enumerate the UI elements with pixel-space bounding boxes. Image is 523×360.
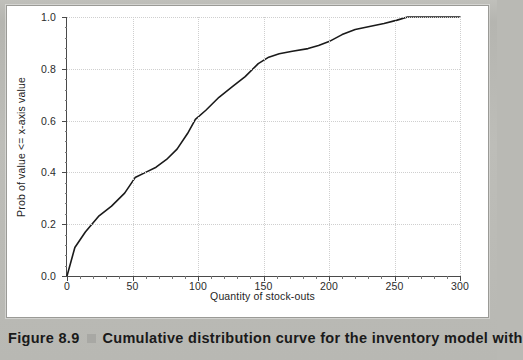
x-axis-minor-tick <box>224 276 225 279</box>
y-axis-minor-tick <box>65 235 68 236</box>
x-axis-minor-tick <box>106 276 107 279</box>
y-axis-tick <box>62 17 67 18</box>
y-axis-minor-tick <box>65 110 68 111</box>
x-axis-minor-tick <box>277 276 278 279</box>
gridline-vertical <box>329 17 330 276</box>
x-axis-minor-tick <box>303 276 304 279</box>
x-axis-minor-tick <box>342 276 343 279</box>
x-axis-minor-tick <box>119 276 120 279</box>
gridline-horizontal <box>67 224 460 225</box>
y-axis-minor-tick <box>65 38 68 39</box>
y-axis-minor-tick <box>65 58 68 59</box>
x-axis-minor-tick <box>172 276 173 279</box>
gridline-vertical <box>460 17 461 276</box>
x-axis-minor-tick <box>211 276 212 279</box>
y-axis-minor-tick <box>65 162 68 163</box>
y-axis-tick-label: 0.4 <box>41 166 56 178</box>
y-axis-tick-label: 0.6 <box>41 115 56 127</box>
y-axis-tick <box>62 276 67 277</box>
caption-text: Cumulative distribution curve for the in… <box>103 330 523 346</box>
gridline-horizontal <box>67 69 460 70</box>
gridline-vertical <box>264 17 265 276</box>
x-axis-minor-tick <box>185 276 186 279</box>
y-axis-minor-tick <box>65 90 68 91</box>
gray-square-marker-icon <box>87 334 96 343</box>
y-axis-tick-label: 1.0 <box>41 11 56 23</box>
y-axis-tick <box>62 172 67 173</box>
y-axis-tick <box>62 121 67 122</box>
y-axis-tick-label: 0.0 <box>41 270 56 282</box>
x-axis-minor-tick <box>434 276 435 279</box>
gridline-vertical <box>133 17 134 276</box>
y-axis-tick <box>62 224 67 225</box>
y-axis-title-text: Prob of value <= x-axis value <box>15 77 27 217</box>
gridline-vertical <box>198 17 199 276</box>
x-axis-minor-tick <box>408 276 409 279</box>
gridline-vertical <box>395 17 396 276</box>
x-axis-minor-tick <box>447 276 448 279</box>
y-axis-tick <box>62 69 67 70</box>
y-axis-title: Prob of value <= x-axis value <box>14 17 28 276</box>
caption-figure-number: Figure 8.9 <box>8 330 80 346</box>
y-axis-minor-tick <box>65 193 68 194</box>
y-axis-minor-tick <box>65 255 68 256</box>
gridline-horizontal <box>67 172 460 173</box>
x-axis-minor-tick <box>421 276 422 279</box>
y-axis-tick-label: 0.8 <box>41 63 56 75</box>
y-axis-minor-tick <box>65 79 68 80</box>
x-axis-minor-tick <box>250 276 251 279</box>
x-axis-minor-tick <box>159 276 160 279</box>
y-axis-minor-tick <box>65 245 68 246</box>
x-axis-title: Quantity of stock-outs <box>66 290 459 302</box>
x-axis-minor-tick <box>368 276 369 279</box>
y-axis-minor-tick <box>65 141 68 142</box>
gridline-horizontal <box>67 121 460 122</box>
x-axis-minor-tick <box>290 276 291 279</box>
y-axis-minor-tick <box>65 48 68 49</box>
figure-caption: Figure 8.9 Cumulative distribution curve… <box>8 330 491 346</box>
x-axis-minor-tick <box>146 276 147 279</box>
y-axis-tick-label: 0.2 <box>41 218 56 230</box>
y-axis-minor-tick <box>65 214 68 215</box>
x-axis-minor-tick <box>80 276 81 279</box>
x-axis-minor-tick <box>93 276 94 279</box>
plot-area: 0501001502002503000.00.20.40.60.81.0 <box>66 17 460 277</box>
y-axis-minor-tick <box>65 203 68 204</box>
x-axis-minor-tick <box>237 276 238 279</box>
x-axis-minor-tick <box>355 276 356 279</box>
x-axis-minor-tick <box>381 276 382 279</box>
gridline-horizontal <box>67 17 460 18</box>
y-axis-minor-tick <box>65 183 68 184</box>
x-axis-minor-tick <box>316 276 317 279</box>
y-axis-minor-tick <box>65 27 68 28</box>
y-axis-minor-tick <box>65 100 68 101</box>
y-axis-minor-tick <box>65 131 68 132</box>
y-axis-minor-tick <box>65 266 68 267</box>
y-axis-minor-tick <box>65 152 68 153</box>
